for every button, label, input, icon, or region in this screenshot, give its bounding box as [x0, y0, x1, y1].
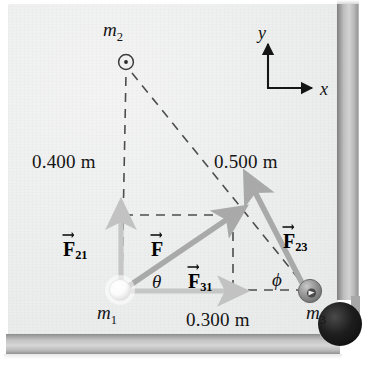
angle-label-phi: ϕ — [272, 270, 282, 289]
vector-overarrow-icon — [187, 262, 199, 270]
dimension-label-horizontal: 0.300 m — [186, 310, 250, 329]
mass-marker-m2 — [119, 55, 134, 70]
vector-label-F31: F31 — [188, 270, 212, 295]
mass-label-m3: m3 — [306, 303, 326, 326]
angle-label-theta: θ — [152, 272, 161, 291]
dashed-triangle — [122, 73, 302, 290]
mass-marker-m3 — [298, 279, 321, 302]
axis-label-y: y — [258, 24, 266, 42]
mass-marker-m1 — [105, 275, 135, 305]
vector-label-F23: F23 — [283, 230, 307, 255]
vector-overarrow-icon — [150, 230, 162, 238]
mass-label-m1: m1 — [97, 303, 117, 326]
force-vector-F-resultant — [126, 218, 229, 288]
axis-label-x: x — [320, 80, 328, 98]
vector-overarrow-icon — [62, 230, 74, 238]
coordinate-axes-indicator — [267, 44, 312, 88]
vector-label-F21: F21 — [63, 238, 87, 263]
vector-overarrow-icon — [282, 222, 294, 230]
dimension-label-vertical: 0.400 m — [32, 152, 96, 171]
vector-label-F: F — [151, 238, 163, 263]
mass-label-m2: m2 — [103, 20, 123, 43]
dimension-label-hypotenuse: 0.500 m — [214, 152, 278, 171]
physics-diagram-figure: m2 m1 m3 0.400 m 0.500 m 0.300 m y x θ ϕ… — [0, 0, 371, 374]
